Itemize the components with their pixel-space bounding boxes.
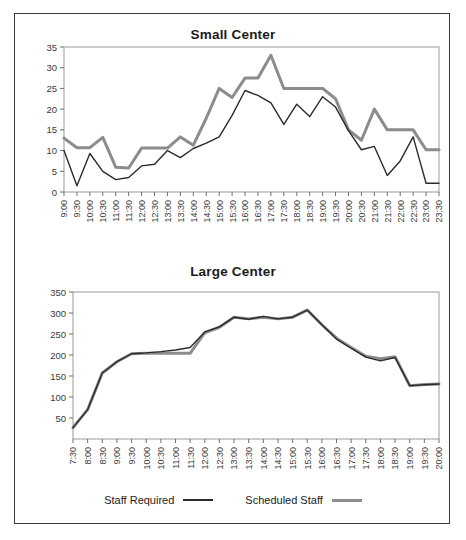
x-axis-tick-label: 15:30 <box>303 447 313 470</box>
x-axis-tick-label: 16:30 <box>332 447 342 470</box>
x-axis-tick-label: 8:30 <box>98 447 108 465</box>
x-axis-tick-label: 18:30 <box>305 200 315 223</box>
x-axis-tick-label: 22:30 <box>409 200 419 223</box>
x-axis-tick-label: 17:00 <box>266 200 276 223</box>
x-axis-tick-label: 20:00 <box>434 447 444 470</box>
x-axis-tick-label: 10:00 <box>142 447 152 470</box>
x-axis-tick-label: 13:30 <box>176 200 186 223</box>
x-axis-tick-label: 21:30 <box>383 200 393 223</box>
x-axis-tick-label: 22:00 <box>396 200 406 223</box>
y-axis-tick-label: 50 <box>55 413 66 424</box>
x-axis-tick-label: 9:30 <box>72 200 82 218</box>
x-axis-tick-label: 16:30 <box>253 200 263 223</box>
legend-label-scheduled-staff: Scheduled Staff <box>245 494 322 506</box>
x-axis-tick-label: 13:00 <box>163 200 173 223</box>
x-axis-tick-label: 23:30 <box>434 200 444 223</box>
y-axis-tick-label: 30 <box>46 62 57 73</box>
x-axis-tick-label: 12:30 <box>215 447 225 470</box>
legend-label-staff-required: Staff Required <box>104 494 174 506</box>
chart-panel-large-center: Large Center 501001502002503003507:308:0… <box>15 262 451 523</box>
x-axis-tick-label: 18:00 <box>376 447 386 470</box>
y-axis-tick-label: 35 <box>46 42 57 53</box>
x-axis-tick-label: 23:00 <box>421 200 431 223</box>
x-axis-tick-label: 15:30 <box>228 200 238 223</box>
x-axis-tick-label: 9:30 <box>127 447 137 465</box>
x-axis-tick-label: 11:30 <box>186 447 196 469</box>
x-axis-tick-label: 20:00 <box>344 200 354 223</box>
y-axis-tick-label: 150 <box>50 371 66 382</box>
x-axis-tick-label: 9:00 <box>59 200 69 218</box>
y-axis-tick-label: 300 <box>50 308 66 319</box>
series-line-scheduled-staff <box>73 310 439 428</box>
y-axis-tick-label: 250 <box>50 329 66 340</box>
x-axis-tick-label: 14:00 <box>259 447 269 470</box>
x-axis-tick-label: 14:00 <box>189 200 199 223</box>
chart-legend: Staff Required Scheduled Staff <box>15 494 451 506</box>
x-axis-tick-label: 8:00 <box>83 447 93 465</box>
y-axis-tick-label: 0 <box>52 187 57 198</box>
y-axis-tick-label: 200 <box>50 350 66 361</box>
plot-area-border <box>73 292 439 439</box>
x-axis-tick-label: 18:00 <box>292 200 302 223</box>
y-axis-tick-label: 100 <box>50 392 66 403</box>
x-axis-tick-label: 19:30 <box>331 200 341 223</box>
y-axis-tick-label: 20 <box>46 104 57 115</box>
x-axis-tick-label: 14:30 <box>202 200 212 223</box>
x-axis-tick-label: 16:00 <box>240 200 250 223</box>
x-axis-tick-label: 10:30 <box>156 447 166 470</box>
x-axis-tick-label: 11:00 <box>111 200 121 222</box>
x-axis-tick-label: 19:00 <box>318 200 328 223</box>
y-axis-tick-label: 25 <box>46 83 57 94</box>
x-axis-tick-label: 20:30 <box>357 200 367 223</box>
series-line-scheduled-staff <box>64 55 439 168</box>
x-axis-tick-label: 13:00 <box>229 447 239 470</box>
chart-plot-small-center: 051015202530359:009:3010:0010:3011:0011:… <box>15 14 451 262</box>
y-axis-tick-label: 5 <box>52 166 57 177</box>
x-axis-tick-label: 12:00 <box>200 447 210 470</box>
x-axis-tick-label: 9:00 <box>112 447 122 465</box>
figure-frame: Small Center 051015202530359:009:3010:00… <box>14 13 450 524</box>
legend-item-staff-required: Staff Required <box>104 494 213 506</box>
legend-item-scheduled-staff: Scheduled Staff <box>245 494 361 506</box>
x-axis-tick-label: 11:30 <box>124 200 134 222</box>
x-axis-tick-label: 14:30 <box>273 447 283 470</box>
x-axis-tick-label: 19:00 <box>405 447 415 470</box>
x-axis-tick-label: 17:30 <box>279 200 289 223</box>
x-axis-tick-label: 10:00 <box>85 200 95 223</box>
legend-swatch-staff-required <box>183 499 213 501</box>
chart-panel-small-center: Small Center 051015202530359:009:3010:00… <box>15 14 451 262</box>
x-axis-tick-label: 19:30 <box>420 447 430 470</box>
y-axis-tick-label: 10 <box>46 145 57 156</box>
series-line-staff-required <box>64 91 439 186</box>
plot-area-border <box>64 47 439 192</box>
x-axis-tick-label: 7:30 <box>68 447 78 465</box>
x-axis-tick-label: 17:30 <box>361 447 371 470</box>
x-axis-tick-label: 15:00 <box>215 200 225 223</box>
y-axis-tick-label: 350 <box>50 287 66 298</box>
x-axis-tick-label: 12:30 <box>150 200 160 223</box>
x-axis-tick-label: 17:00 <box>347 447 357 470</box>
x-axis-tick-label: 15:00 <box>288 447 298 470</box>
legend-swatch-scheduled-staff <box>332 499 362 502</box>
x-axis-tick-label: 18:30 <box>390 447 400 470</box>
x-axis-tick-label: 16:00 <box>317 447 327 470</box>
x-axis-tick-label: 12:00 <box>137 200 147 223</box>
series-line-staff-required <box>73 310 439 428</box>
x-axis-tick-label: 10:30 <box>98 200 108 223</box>
y-axis-tick-label: 15 <box>46 124 57 135</box>
x-axis-tick-label: 11:00 <box>171 447 181 469</box>
chart-plot-large-center: 501001502002503003507:308:008:309:009:30… <box>15 262 451 494</box>
x-axis-tick-label: 13:30 <box>244 447 254 470</box>
x-axis-tick-label: 21:00 <box>370 200 380 223</box>
